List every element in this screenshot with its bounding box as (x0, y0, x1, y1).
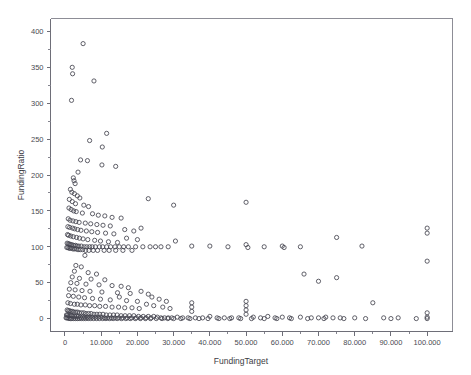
x-tick-label: 0 (63, 338, 67, 347)
y-tick-label: 200 (31, 171, 44, 180)
y-tick-label: 50 (35, 278, 43, 287)
y-tick-label: 300 (31, 99, 44, 108)
x-tick-label: 30.000 (162, 338, 185, 347)
x-tick-label: 80.000 (343, 338, 366, 347)
x-tick-label: 90.000 (379, 338, 402, 347)
x-tick-label: 20.000 (126, 338, 149, 347)
y-tick-label: 0 (39, 314, 43, 323)
x-tick-label: 60.000 (271, 338, 294, 347)
y-tick-label: 100 (31, 243, 44, 252)
x-tick-label: 100.000 (414, 338, 441, 347)
y-tick-label: 150 (31, 207, 44, 216)
x-tick-label: 50.000 (235, 338, 258, 347)
scatter-plot-canvas: 010.00020.00030.00040.00050.00060.00070.… (0, 0, 471, 375)
y-axis-title: FundingRatio (16, 149, 26, 200)
x-tick-label: 10.000 (90, 338, 113, 347)
x-tick-label: 40.000 (198, 338, 221, 347)
x-tick-label: 70.000 (307, 338, 330, 347)
y-tick-label: 400 (31, 27, 44, 36)
scatter-plot-figure: 010.00020.00030.00040.00050.00060.00070.… (0, 0, 471, 375)
y-tick-label: 250 (31, 135, 44, 144)
x-axis-title: FundingTarget (214, 356, 269, 366)
y-tick-label: 350 (31, 63, 44, 72)
